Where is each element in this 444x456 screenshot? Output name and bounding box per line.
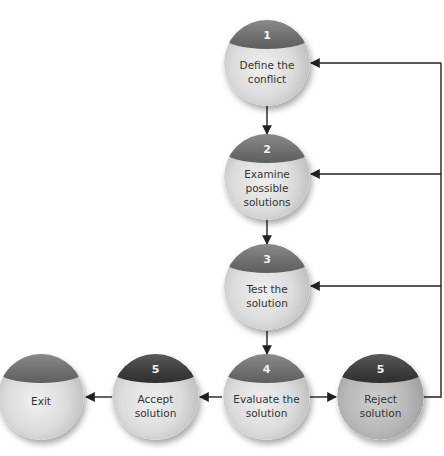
node-label: Evaluate the solution [228,392,305,420]
step-number: 3 [224,253,310,266]
node-label: Define the conflict [229,58,305,86]
node-label: Examine possible solutions [229,167,305,209]
node-define-conflict: 1 Define the conflict [224,20,310,106]
node-label: Accept solution [117,392,194,420]
node-label: Reject solution [342,392,419,420]
step-number: 4 [223,363,310,376]
node-label: Exit [3,394,79,408]
node-evaluate-solution: 4 Evaluate the solution [223,354,310,440]
step-number: 2 [224,143,310,156]
node-test-solution: 3 Test the solution [224,244,310,330]
node-label: Test the solution [229,282,305,310]
node-examine-solutions: 2 Examine possible solutions [224,134,310,220]
step-number: 1 [224,29,310,42]
node-reject-solution: 5 Reject solution [337,354,424,440]
node-exit: Exit [0,354,84,440]
node-accept-solution: 5 Accept solution [112,354,199,440]
step-number: 5 [112,363,199,376]
step-number: 5 [337,363,424,376]
